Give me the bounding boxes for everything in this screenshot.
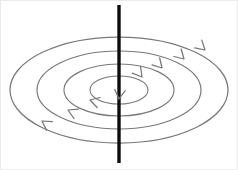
magnetic-field-diagram: Magnetic field loops around a vertical c… bbox=[0, 0, 238, 170]
figure-container: Magnetic field loops around a vertical c… bbox=[0, 0, 238, 170]
